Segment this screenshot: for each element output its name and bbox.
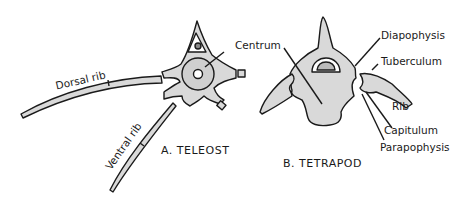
label-rib: Rib <box>392 100 409 112</box>
label-parapophysis: Parapophysis <box>380 141 450 153</box>
tetrapod-rib-left <box>260 74 294 114</box>
label-centrum: Centrum <box>235 39 281 51</box>
caption-tetrapod: B. TETRAPOD <box>283 157 362 170</box>
label-capitulum: Capitulum <box>384 124 438 136</box>
label-tuberculum: Tuberculum <box>381 55 442 67</box>
label-diapophysis: Diapophysis <box>381 29 445 41</box>
caption-teleost: A. TELEOST <box>161 144 229 157</box>
